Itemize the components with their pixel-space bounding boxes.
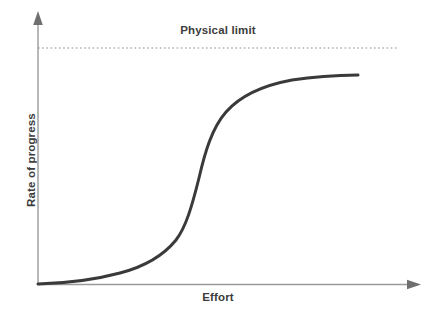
- y-axis-label: Rate of progress: [26, 80, 38, 240]
- progress-curve: [38, 75, 358, 284]
- x-axis-arrowhead-icon: [407, 280, 421, 290]
- chart-figure: Physical limit Rate of progress Effort: [0, 0, 436, 320]
- chart-canvas: [0, 0, 436, 320]
- physical-limit-label: Physical limit: [0, 25, 436, 37]
- y-axis-arrowhead-icon: [33, 11, 43, 25]
- x-axis-label: Effort: [0, 292, 436, 304]
